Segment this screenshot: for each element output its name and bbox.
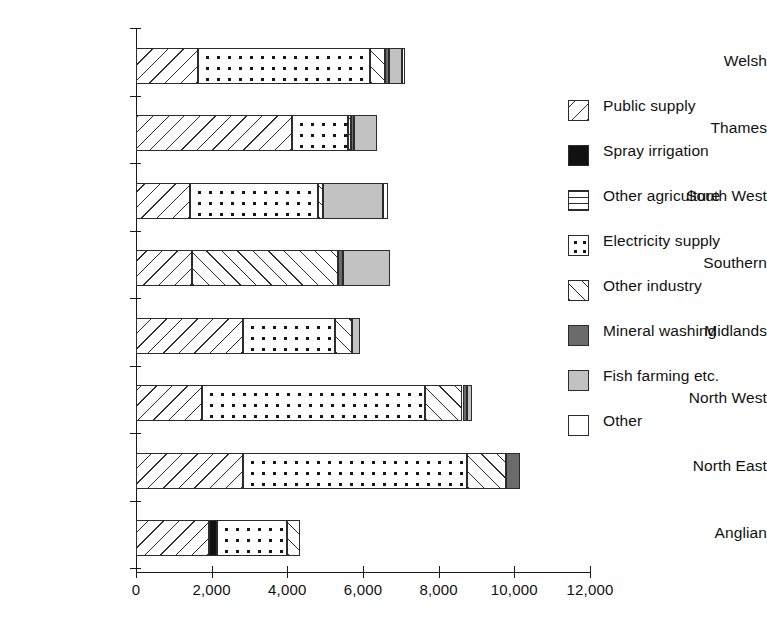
category-label-anglian: Anglian <box>641 524 767 542</box>
bar-segment-other[interactable] <box>383 183 388 219</box>
bar-segment-otherind[interactable] <box>467 453 506 489</box>
legend-label: Mineral washing <box>603 322 717 340</box>
legend-item-other[interactable]: Other <box>568 411 766 456</box>
y-axis-tick <box>130 298 141 299</box>
x-axis-tick <box>590 566 591 578</box>
bar-segment-otherind[interactable] <box>192 250 338 286</box>
bar-segment-otherind[interactable] <box>335 318 352 354</box>
bar-segment-fish[interactable] <box>467 385 472 421</box>
legend-label: Other agriculture <box>603 187 720 205</box>
y-axis-tick <box>130 231 141 232</box>
bar-segment-fish[interactable] <box>343 250 390 286</box>
legend-swatch-other-icon <box>568 415 589 436</box>
legend-label: Public supply <box>603 97 696 115</box>
legend-item-fish[interactable]: Fish farming etc. <box>568 366 766 411</box>
bar-segment-elec[interactable] <box>217 520 287 556</box>
legend-swatch-mineral-icon <box>568 325 589 346</box>
y-axis-tick <box>130 433 141 434</box>
x-axis-tick-label: 12,000 <box>545 581 635 598</box>
bar-segment-otherind[interactable] <box>287 520 300 556</box>
legend-label: Fish farming etc. <box>603 367 719 385</box>
y-axis-tick <box>130 501 141 502</box>
bar-segment-public[interactable] <box>136 520 209 556</box>
legend-swatch-elec-icon <box>568 235 589 256</box>
legend-swatch-fish-icon <box>568 370 589 391</box>
legend-item-public[interactable]: Public supply <box>568 96 766 141</box>
stacked-bar-chart: 02,0004,0006,0008,00010,00012,000 WelshT… <box>0 0 767 629</box>
legend-item-mineral[interactable]: Mineral washing <box>568 321 766 366</box>
x-axis-tick <box>514 566 515 578</box>
legend-swatch-spray-icon <box>568 145 589 166</box>
category-label-welsh: Welsh <box>641 52 767 70</box>
bar-segment-public[interactable] <box>136 183 190 219</box>
legend-label: Electricity supply <box>603 232 720 250</box>
y-axis-tick <box>130 366 141 367</box>
category-label-north-east: North East <box>641 457 767 475</box>
chart-legend: Public supplySpray irrigationOther agric… <box>568 96 766 456</box>
bar-segment-public[interactable] <box>136 453 243 489</box>
bar-segment-fish[interactable] <box>389 48 401 84</box>
bar-segment-mineral[interactable] <box>506 453 520 489</box>
bar-segment-elec[interactable] <box>243 318 335 354</box>
y-axis-tick <box>130 568 141 569</box>
bar-segment-public[interactable] <box>136 250 192 286</box>
y-axis-tick <box>130 28 141 29</box>
legend-item-elec[interactable]: Electricity supply <box>568 231 766 276</box>
bar-segment-otherind[interactable] <box>425 385 462 421</box>
legend-label: Other <box>603 412 642 430</box>
bar-segment-public[interactable] <box>136 115 292 151</box>
bar-segment-fish[interactable] <box>354 115 377 151</box>
bar-segment-elec[interactable] <box>292 115 348 151</box>
bar-segment-otherind[interactable] <box>370 48 385 84</box>
legend-label: Spray irrigation <box>603 142 709 160</box>
y-axis-tick <box>130 163 141 164</box>
bar-segment-public[interactable] <box>136 318 243 354</box>
x-axis-tick <box>439 566 440 578</box>
legend-swatch-public-icon <box>568 100 589 121</box>
legend-swatch-otherind-icon <box>568 280 589 301</box>
bar-segment-elec[interactable] <box>190 183 318 219</box>
y-axis-tick <box>130 96 141 97</box>
bar-segment-fish[interactable] <box>323 183 383 219</box>
bar-segment-spray[interactable] <box>209 520 217 556</box>
x-axis-tick <box>212 566 213 578</box>
bar-segment-elec[interactable] <box>198 48 370 84</box>
x-axis-tick <box>287 566 288 578</box>
legend-item-spray[interactable]: Spray irrigation <box>568 141 766 186</box>
bar-segment-public[interactable] <box>136 385 202 421</box>
legend-item-otheragri[interactable]: Other agriculture <box>568 186 766 231</box>
bar-segment-public[interactable] <box>136 48 198 84</box>
legend-item-otherind[interactable]: Other industry <box>568 276 766 321</box>
bar-segment-elec[interactable] <box>202 385 425 421</box>
bar-segment-fish[interactable] <box>352 318 360 354</box>
x-axis-tick <box>363 566 364 578</box>
legend-label: Other industry <box>603 277 702 295</box>
legend-swatch-otheragri-icon <box>568 190 589 211</box>
bar-segment-elec[interactable] <box>243 453 467 489</box>
bar-segment-other[interactable] <box>402 48 405 84</box>
